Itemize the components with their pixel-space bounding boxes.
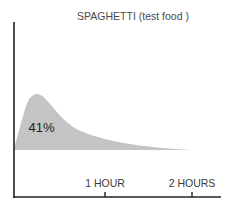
glycemic-response-chart: SPAGHETTI (test food ) 1 HOUR2 HOURS 41% bbox=[0, 0, 225, 210]
x-tick-label: 2 HOURS bbox=[169, 177, 216, 189]
x-tick-label: 1 HOUR bbox=[85, 177, 125, 189]
chart-title: SPAGHETTI (test food ) bbox=[77, 10, 189, 22]
area-percentage-label: 41% bbox=[28, 120, 54, 135]
